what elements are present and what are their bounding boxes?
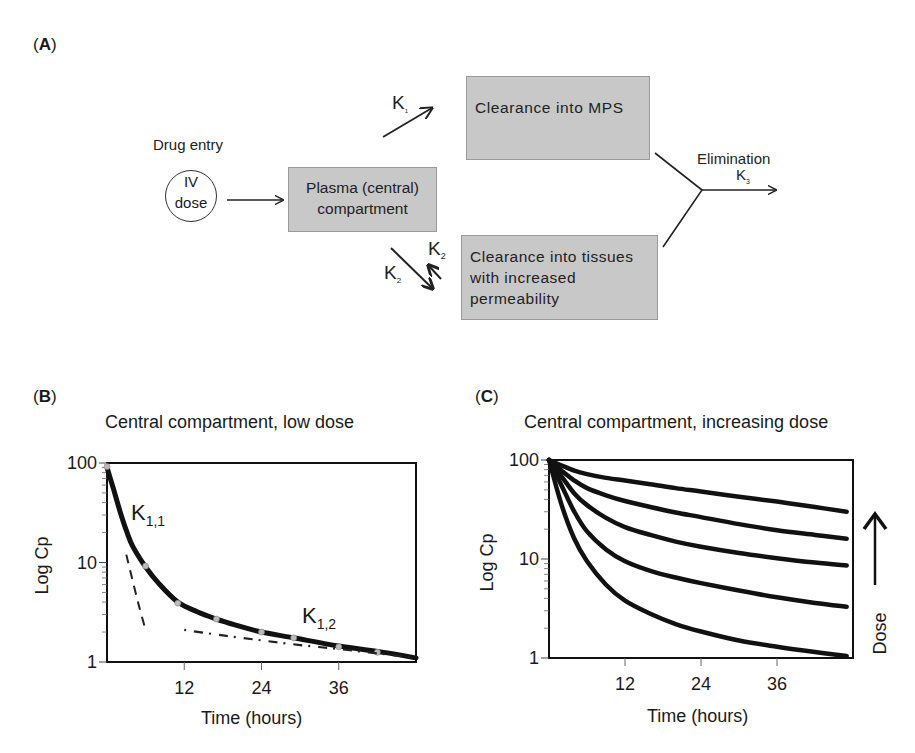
- chart-c-xtick-label: 36: [767, 674, 787, 694]
- chart-c-xtick-label: 24: [691, 674, 711, 694]
- chart-c-xtick-label: 12: [615, 674, 635, 694]
- chart-c-series-dose-5: [549, 460, 847, 512]
- chart-c-plot: 110100122436: [0, 0, 915, 753]
- chart-c-ytick-label: 1: [529, 648, 539, 668]
- chart-c-ytick-label: 10: [519, 549, 539, 569]
- chart-c-series-dose-4: [549, 460, 847, 539]
- chart-c-ytick-label: 100: [509, 450, 539, 470]
